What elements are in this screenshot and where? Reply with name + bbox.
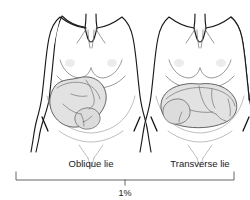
panel-transverse: Transverse lie bbox=[140, 14, 250, 169]
fetal-head-oblique bbox=[75, 108, 100, 129]
areola-left-transverse bbox=[174, 59, 184, 67]
panel-label-transverse: Transverse lie bbox=[170, 158, 229, 169]
fetal-lie-diagram: Oblique lie bbox=[0, 0, 250, 200]
fetal-head-transverse bbox=[163, 99, 190, 124]
hip-marker-left-oblique bbox=[42, 117, 48, 131]
panel-label-oblique: Oblique lie bbox=[69, 158, 114, 169]
panel-oblique: Oblique lie bbox=[31, 14, 151, 169]
hip-marker-right-transverse bbox=[243, 117, 249, 131]
fetus-oblique bbox=[50, 77, 106, 129]
lower-abdomen-crease-oblique bbox=[59, 131, 123, 142]
percentage-bracket: 1% bbox=[16, 172, 234, 198]
areola-right-oblique bbox=[107, 59, 117, 67]
hip-marker-left-transverse bbox=[151, 117, 157, 131]
percentage-label: 1% bbox=[118, 188, 131, 198]
areola-right-transverse bbox=[216, 59, 226, 67]
areola-left-oblique bbox=[65, 59, 75, 67]
lower-abdomen-crease-transverse bbox=[168, 131, 232, 142]
fetus-transverse bbox=[161, 84, 237, 128]
